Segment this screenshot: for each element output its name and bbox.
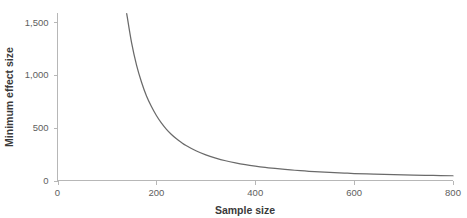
x-axis-title: Sample size [215, 204, 275, 216]
x-tick-label: 0 [55, 187, 60, 198]
y-tick-label: 0 [43, 175, 48, 186]
x-tick-label: 600 [346, 187, 362, 198]
plot-background [0, 0, 467, 218]
y-axis-title: Minimum effect size [3, 47, 15, 147]
x-tick-label: 400 [247, 187, 263, 198]
y-tick-label: 500 [33, 122, 49, 133]
x-tick-label: 800 [445, 187, 461, 198]
y-tick-label: 1,500 [25, 17, 49, 28]
x-tick-label: 200 [148, 187, 164, 198]
y-tick-label: 1,000 [25, 69, 49, 80]
chart-container: 05001,0001,500 0200400600800 Sample size… [0, 0, 467, 218]
minimum-effect-size-line-chart: 05001,0001,500 0200400600800 Sample size… [0, 0, 467, 218]
